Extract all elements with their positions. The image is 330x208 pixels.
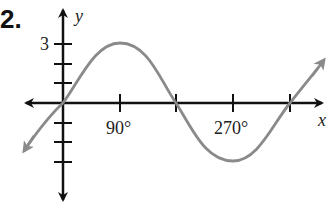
x-axis-label: x <box>317 110 326 130</box>
x-tick-label-270: 270° <box>214 118 248 138</box>
y-tick-label-3: 3 <box>40 34 49 54</box>
curve-arrow-left <box>24 136 34 151</box>
x-tick-label-90: 90° <box>106 118 131 138</box>
problem-number: 2. <box>0 4 22 34</box>
sine-graph: 2. y x 3 90° 270° <box>0 0 330 208</box>
curve-arrow-right <box>312 60 324 76</box>
y-axis-label: y <box>73 6 83 26</box>
